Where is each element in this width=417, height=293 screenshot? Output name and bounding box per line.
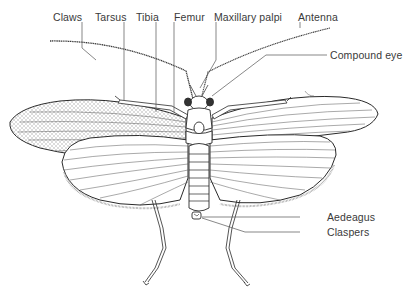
label-femur: Femur bbox=[174, 11, 205, 23]
label-maxillary-palpi: Maxillary palpi bbox=[214, 11, 282, 23]
right-hindwing bbox=[210, 135, 336, 207]
label-claws: Claws bbox=[53, 11, 82, 23]
insect-illustration bbox=[0, 0, 417, 293]
caddisfly-anatomy-diagram: Claws Tarsus Tibia Femur Maxillary palpi… bbox=[0, 0, 417, 293]
label-claspers: Claspers bbox=[327, 226, 369, 238]
label-compound-eye: Compound eye bbox=[330, 49, 402, 61]
label-tarsus: Tarsus bbox=[95, 11, 127, 23]
body bbox=[185, 85, 214, 219]
label-tibia: Tibia bbox=[136, 11, 159, 23]
left-hindwing bbox=[62, 135, 188, 208]
label-aedeagus: Aedeagus bbox=[327, 211, 375, 223]
label-antenna: Antenna bbox=[298, 11, 338, 23]
antennae bbox=[50, 28, 330, 99]
